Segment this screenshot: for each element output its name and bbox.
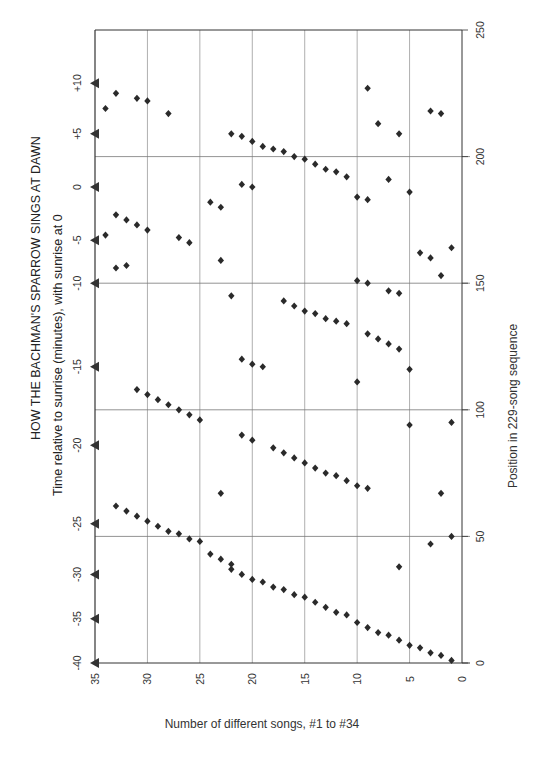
time-tick-label: -35 bbox=[71, 611, 83, 626]
data-point-diamond-icon bbox=[354, 194, 360, 201]
gridlines bbox=[95, 30, 470, 663]
data-point-diamond-icon bbox=[385, 340, 391, 347]
data-point-diamond-icon bbox=[102, 231, 108, 238]
data-point-diamond-icon bbox=[239, 133, 245, 140]
data-point-diamond-icon bbox=[144, 97, 150, 104]
data-point-diamond-icon bbox=[249, 183, 255, 190]
data-point-diamond-icon bbox=[186, 239, 192, 246]
data-point-diamond-icon bbox=[165, 110, 171, 117]
data-point-diamond-icon bbox=[207, 551, 213, 558]
data-point-diamond-icon bbox=[102, 105, 108, 112]
data-point-diamond-icon bbox=[134, 386, 140, 393]
data-point-diamond-icon bbox=[291, 454, 297, 461]
data-point-diamond-icon bbox=[364, 330, 370, 337]
data-points bbox=[102, 85, 454, 664]
data-point-diamond-icon bbox=[113, 264, 119, 271]
data-point-diamond-icon bbox=[322, 604, 328, 611]
data-point-diamond-icon bbox=[427, 540, 433, 547]
x-axis-title: Number of different songs, #1 to #34 bbox=[165, 717, 360, 731]
data-point-diamond-icon bbox=[176, 406, 182, 413]
data-point-diamond-icon bbox=[197, 416, 203, 423]
data-point-diamond-icon bbox=[333, 318, 339, 325]
right-axis-title: Position in 229-song sequence bbox=[506, 324, 520, 488]
chart-title: HOW THE BACHMAN'S SPARROW SINGS AT DAWN bbox=[29, 136, 43, 440]
data-point-diamond-icon bbox=[343, 320, 349, 327]
data-point-diamond-icon bbox=[228, 561, 234, 568]
data-point-diamond-icon bbox=[186, 411, 192, 418]
data-point-diamond-icon bbox=[123, 216, 129, 223]
data-point-diamond-icon bbox=[354, 482, 360, 489]
data-point-diamond-icon bbox=[354, 378, 360, 385]
data-point-diamond-icon bbox=[270, 145, 276, 152]
data-point-diamond-icon bbox=[302, 459, 308, 466]
data-point-diamond-icon bbox=[228, 130, 234, 137]
plot-frame bbox=[95, 30, 470, 663]
data-point-diamond-icon bbox=[375, 335, 381, 342]
data-point-diamond-icon bbox=[302, 307, 308, 314]
data-point-diamond-icon bbox=[218, 490, 224, 497]
data-point-diamond-icon bbox=[134, 221, 140, 228]
data-point-diamond-icon bbox=[438, 272, 444, 279]
data-point-diamond-icon bbox=[176, 234, 182, 241]
data-point-diamond-icon bbox=[197, 538, 203, 545]
x-tick-label: 20 bbox=[246, 673, 258, 685]
data-point-diamond-icon bbox=[396, 637, 402, 644]
data-point-diamond-icon bbox=[260, 363, 266, 370]
time-tick-label: -40 bbox=[71, 655, 83, 670]
data-point-diamond-icon bbox=[281, 148, 287, 155]
y-tick-label: 150 bbox=[474, 274, 486, 292]
time-tick-label: -20 bbox=[71, 438, 83, 453]
y-tick-label: 50 bbox=[474, 530, 486, 542]
data-point-diamond-icon bbox=[406, 421, 412, 428]
y-tick-label: 250 bbox=[474, 21, 486, 39]
data-point-diamond-icon bbox=[134, 513, 140, 520]
data-point-diamond-icon bbox=[144, 391, 150, 398]
time-tick-label: -25 bbox=[71, 516, 83, 531]
data-point-diamond-icon bbox=[113, 90, 119, 97]
data-point-diamond-icon bbox=[364, 485, 370, 492]
data-point-diamond-icon bbox=[123, 262, 129, 269]
data-point-diamond-icon bbox=[427, 649, 433, 656]
time-tick-label: +10 bbox=[71, 74, 83, 92]
data-point-diamond-icon bbox=[155, 396, 161, 403]
data-point-diamond-icon bbox=[448, 419, 454, 426]
data-point-diamond-icon bbox=[406, 366, 412, 373]
y-tick-label: 200 bbox=[474, 148, 486, 166]
x-tick-label: 35 bbox=[89, 673, 101, 685]
x-tick-label: 0 bbox=[456, 676, 468, 682]
time-tick-label: 0 bbox=[71, 184, 83, 190]
data-point-diamond-icon bbox=[333, 609, 339, 616]
time-tick-label: -5 bbox=[71, 235, 83, 244]
data-point-diamond-icon bbox=[448, 244, 454, 251]
data-point-diamond-icon bbox=[343, 477, 349, 484]
data-point-diamond-icon bbox=[396, 345, 402, 352]
data-point-diamond-icon bbox=[113, 502, 119, 509]
data-point-diamond-icon bbox=[333, 168, 339, 175]
data-point-diamond-icon bbox=[281, 449, 287, 456]
x-tick-label: 25 bbox=[194, 673, 206, 685]
data-point-diamond-icon bbox=[322, 166, 328, 173]
data-point-diamond-icon bbox=[281, 297, 287, 304]
data-point-diamond-icon bbox=[260, 578, 266, 585]
data-point-diamond-icon bbox=[322, 315, 328, 322]
data-point-diamond-icon bbox=[249, 437, 255, 444]
data-point-diamond-icon bbox=[417, 644, 423, 651]
data-point-diamond-icon bbox=[364, 624, 370, 631]
data-point-diamond-icon bbox=[438, 490, 444, 497]
data-point-diamond-icon bbox=[249, 576, 255, 583]
x-tick-label: 15 bbox=[299, 673, 311, 685]
data-point-diamond-icon bbox=[427, 254, 433, 261]
data-point-diamond-icon bbox=[364, 280, 370, 287]
data-point-diamond-icon bbox=[281, 586, 287, 593]
data-point-diamond-icon bbox=[302, 594, 308, 601]
y-tick-label: 0 bbox=[474, 660, 486, 666]
data-point-diamond-icon bbox=[427, 107, 433, 114]
data-point-diamond-icon bbox=[218, 257, 224, 264]
data-point-diamond-icon bbox=[260, 143, 266, 150]
y-tick-label: 100 bbox=[474, 401, 486, 419]
x-tick-label: 30 bbox=[141, 673, 153, 685]
data-point-diamond-icon bbox=[144, 518, 150, 525]
chart-subtitle: Time relative to sunrise (minutes), with… bbox=[51, 214, 65, 496]
data-point-diamond-icon bbox=[364, 85, 370, 92]
time-tick-label: +5 bbox=[71, 128, 83, 140]
